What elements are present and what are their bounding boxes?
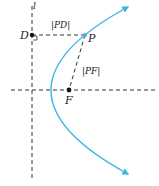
- label-f: F: [64, 94, 73, 107]
- label-p: P: [87, 32, 96, 45]
- point-p: [83, 33, 87, 37]
- label-segment-pf: |PF|: [82, 66, 100, 77]
- segment-pf: [69, 35, 85, 90]
- point-d: [30, 33, 34, 37]
- point-f: [67, 88, 72, 93]
- label-segment-pd: |PD|: [51, 20, 70, 31]
- parabola-diagram: l D P F |PD| |PF|: [0, 0, 159, 186]
- label-d: D: [19, 29, 29, 42]
- label-directrix: l: [33, 1, 36, 11]
- right-angle-mark: [33, 36, 37, 40]
